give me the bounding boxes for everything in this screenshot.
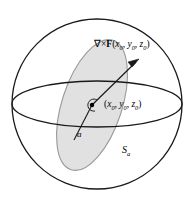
curl-paren-close: )	[146, 39, 149, 49]
surface-label-sa: Sa	[122, 145, 130, 158]
curl-sphere-figure: ∇×F(x0, y0, z0) (x0, y0, z0) a Sa	[0, 0, 194, 202]
surface-symbol-subscript: a	[127, 150, 130, 157]
curl-vector-arrowhead	[128, 59, 139, 67]
center-point-label: (x0, y0, z0)	[104, 100, 141, 111]
curl-vector-label: ∇×F(x0, y0, z0)	[94, 40, 150, 51]
curl-operator-symbol: ∇×	[94, 39, 106, 49]
radius-label: a	[77, 130, 82, 139]
figure-canvas	[0, 0, 194, 202]
point-paren-close: )	[138, 99, 141, 109]
center-point-dot	[90, 103, 94, 107]
